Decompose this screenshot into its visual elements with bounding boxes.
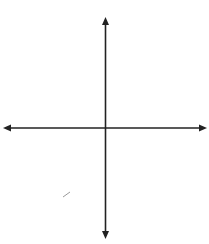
x-axis-right-arrow-icon — [199, 125, 207, 132]
y-axis-up-arrow-icon — [102, 17, 109, 25]
stray-pencil-mark — [63, 192, 70, 197]
coordinate-plane — [0, 0, 209, 244]
y-axis-down-arrow-icon — [102, 231, 109, 239]
x-axis-left-arrow-icon — [3, 125, 11, 132]
axes — [3, 17, 207, 239]
